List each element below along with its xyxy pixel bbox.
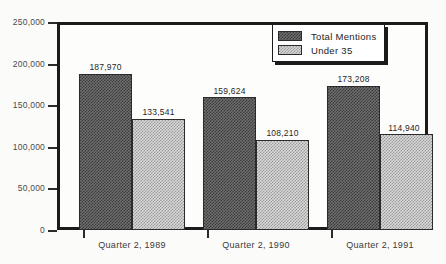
x-tick-mark [331, 230, 333, 238]
y-tick-mark [48, 147, 57, 149]
bar-under-35-1991 [380, 134, 433, 230]
bar-total-mentions-1989 [79, 74, 132, 230]
bar-total-mentions-1990 [203, 97, 256, 230]
y-tick-label: 250,000 [13, 17, 45, 27]
y-tick-label: 100,000 [13, 142, 45, 152]
bar-value-label: 108,210 [266, 128, 298, 138]
x-tick-mark [83, 230, 85, 238]
bar-under-35-1989 [132, 119, 185, 230]
bar-value-label: 114,940 [388, 123, 420, 133]
x-tick-label: Quarter 2, 1989 [98, 240, 166, 250]
chart-legend: Total Mentions Under 35 [272, 24, 385, 62]
y-tick-mark [48, 22, 57, 24]
bar-value-label: 133,541 [142, 107, 174, 117]
bar-value-label: 159,624 [213, 86, 245, 96]
bar-total-mentions-1991 [327, 86, 380, 230]
bar-chart: 250,000 200,000 150,000 100,000 50,000 0… [0, 0, 446, 264]
legend-swatch-icon [278, 45, 302, 55]
y-tick-label: 50,000 [18, 183, 45, 193]
bar-under-35-1990 [256, 140, 309, 230]
y-tick-mark [48, 188, 57, 190]
legend-label: Total Mentions [311, 31, 376, 42]
x-tick-mark [207, 230, 209, 238]
y-tick-label: 200,000 [13, 59, 45, 69]
y-tick-label: 150,000 [13, 100, 45, 110]
legend-item-total-mentions: Total Mentions [278, 29, 376, 43]
bar-value-label: 187,970 [89, 62, 121, 72]
bar-value-label: 173,208 [337, 74, 369, 84]
y-tick-mark [48, 105, 57, 107]
y-tick-label: 0 [40, 225, 45, 235]
legend-label: Under 35 [311, 45, 352, 56]
y-tick-mark [48, 64, 57, 66]
legend-swatch-icon [278, 31, 302, 41]
legend-item-under-35: Under 35 [278, 43, 376, 57]
y-tick-mark [48, 230, 57, 232]
x-tick-label: Quarter 2, 1990 [222, 240, 290, 250]
x-tick-label: Quarter 2, 1991 [346, 240, 414, 250]
